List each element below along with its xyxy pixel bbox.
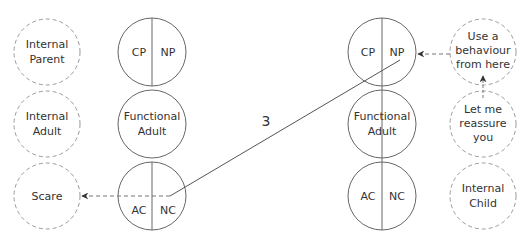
- left-ac-label: AC: [131, 204, 146, 217]
- left-adult-circle: [118, 90, 186, 158]
- internal-parent-circle: [14, 19, 80, 85]
- right-ac-label: AC: [360, 190, 375, 203]
- left-nc-label: NC: [160, 204, 176, 217]
- left-adult-line1: Functional: [124, 110, 181, 123]
- right-cp-label: CP: [361, 46, 376, 59]
- right-np-label: NP: [390, 46, 405, 59]
- internal-adult-circle: [14, 91, 80, 157]
- reassure-line2: reassure: [459, 117, 507, 130]
- internal-parent-line2: Parent: [29, 53, 65, 66]
- right-adult-line1: Functional: [354, 110, 411, 123]
- use-behaviour-line1: Use a: [468, 30, 499, 43]
- left-cp-label: CP: [132, 46, 147, 59]
- reassure-line1: Let me: [464, 103, 502, 116]
- left-np-label: NP: [161, 46, 176, 59]
- internal-child-circle: [450, 163, 516, 229]
- transaction-line-nc-to-np: [170, 60, 400, 196]
- use-behaviour-line2: behaviour: [455, 44, 511, 57]
- left-ego-states: [118, 18, 186, 230]
- right-ego-states: [348, 18, 416, 230]
- internal-adult-line2: Adult: [33, 125, 62, 138]
- internal-child-line2: Child: [469, 197, 497, 210]
- left-adult-line2: Adult: [138, 125, 167, 138]
- transaction-number-label: 3: [262, 113, 271, 129]
- internal-adult-line1: Internal: [26, 110, 68, 123]
- reassure-line3: you: [473, 131, 493, 144]
- right-adult-line2: Adult: [368, 125, 397, 138]
- ta-diagram: Internal Parent Internal Adult Scare CP …: [0, 0, 528, 246]
- scare-label: Scare: [32, 190, 63, 203]
- right-nc-label: NC: [389, 190, 405, 203]
- internal-parent-line1: Internal: [26, 38, 68, 51]
- use-behaviour-line3: from here: [456, 58, 510, 71]
- internal-child-line1: Internal: [462, 182, 504, 195]
